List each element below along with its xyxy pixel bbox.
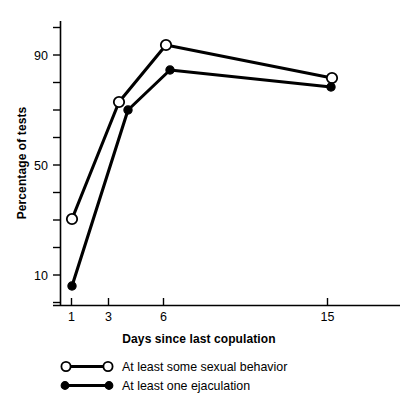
x-tick-label-6: 6 [160, 310, 167, 324]
y-tick-label-10: 10 [34, 269, 48, 283]
data-point-filled-day1 [68, 282, 76, 290]
data-point-open-day15 [327, 73, 337, 83]
data-point-filled-day3 [124, 106, 132, 114]
y-tick-labels: 90 50 10 [34, 49, 48, 283]
data-point-filled-day6 [166, 66, 174, 74]
x-tick-label-3: 3 [105, 310, 112, 324]
data-point-open-day1 [67, 214, 77, 224]
legend-item-one-ejaculation: At least one ejaculation [61, 379, 250, 393]
x-tick-marks [72, 298, 328, 306]
legend-marker-open-left [61, 362, 70, 371]
line-chart-svg: 90 50 10 1 3 6 15 Days since last copula… [0, 0, 416, 394]
series-one-ejaculation-line [72, 70, 331, 286]
legend-label-some-sexual-behavior: At least some sexual behavior [122, 360, 287, 374]
x-tick-label-1: 1 [68, 310, 75, 324]
data-point-open-day6 [161, 40, 171, 50]
x-tick-labels: 1 3 6 15 [68, 310, 334, 324]
series-one-ejaculation [68, 66, 335, 290]
legend-label-one-ejaculation: At least one ejaculation [122, 379, 250, 393]
series-some-sexual-behavior-line [72, 45, 332, 219]
axis-group [53, 21, 400, 306]
x-axis-title: Days since last copulation [122, 332, 275, 346]
data-point-filled-day15 [327, 83, 335, 91]
y-axis-title: Percentage of tests [15, 106, 29, 219]
y-tick-marks [53, 28, 61, 303]
y-tick-label-90: 90 [34, 49, 48, 63]
legend-item-some-sexual-behavior: At least some sexual behavior [61, 360, 287, 374]
data-point-open-day3 [114, 97, 124, 107]
legend-marker-filled-left [61, 382, 69, 390]
chart-figure: 90 50 10 1 3 6 15 Days since last copula… [0, 0, 416, 394]
y-tick-label-50: 50 [34, 159, 48, 173]
chart-legend: At least some sexual behavior At least o… [61, 360, 287, 393]
series-some-sexual-behavior [67, 40, 337, 224]
x-tick-label-15: 15 [321, 310, 335, 324]
legend-marker-filled-right [105, 382, 113, 390]
legend-marker-open-right [103, 362, 112, 371]
